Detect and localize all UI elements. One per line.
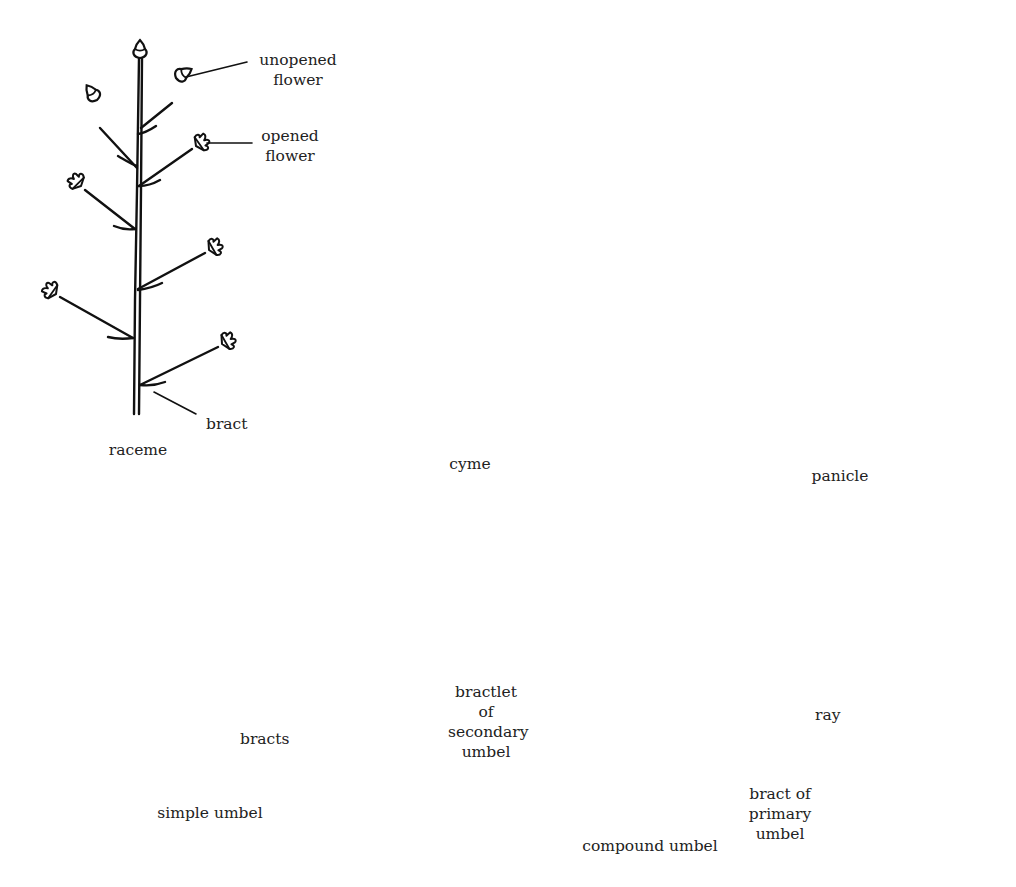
- label-bract-primary-line2: primary umbel: [724, 804, 836, 844]
- label-unopened-flower-line1: unopened: [258, 50, 338, 70]
- label-ray: ray: [815, 705, 840, 725]
- label-bractlet-line3: umbel: [448, 742, 524, 762]
- label-bractlet-line2: secondary: [448, 722, 524, 742]
- label-bractlet-secondary-umbel: bractlet of secondary umbel: [448, 682, 524, 762]
- label-opened-flower-line1: opened: [258, 126, 322, 146]
- caption-compound-umbel: compound umbel: [580, 836, 720, 856]
- caption-panicle: panicle: [800, 466, 880, 486]
- caption-raceme: raceme: [98, 440, 178, 460]
- label-unopened-flower-line2: flower: [258, 70, 338, 90]
- label-opened-flower-line2: flower: [258, 146, 322, 166]
- label-unopened-flower: unopened flower: [258, 50, 338, 90]
- caption-cyme: cyme: [430, 454, 510, 474]
- label-bract: bract: [206, 414, 247, 434]
- label-bractlet-line1: bractlet of: [448, 682, 524, 722]
- raceme-drawing: [40, 40, 252, 414]
- caption-simple-umbel: simple umbel: [140, 803, 280, 823]
- label-bract-primary-line1: bract of: [724, 784, 836, 804]
- label-opened-flower: opened flower: [258, 126, 322, 166]
- label-bract-primary-umbel: bract of primary umbel: [724, 784, 836, 844]
- label-bracts: bracts: [240, 729, 289, 749]
